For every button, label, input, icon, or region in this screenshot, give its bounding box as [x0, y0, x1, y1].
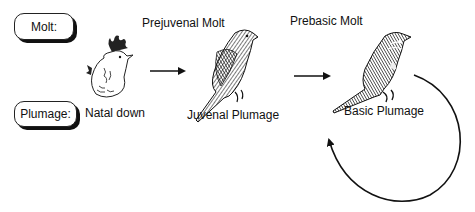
juvenile-bird-icon — [196, 30, 258, 122]
cycle-arrow — [329, 75, 460, 201]
chick-icon — [86, 36, 133, 98]
adult-bird-icon — [333, 32, 411, 113]
diagram-graphics — [0, 0, 475, 212]
